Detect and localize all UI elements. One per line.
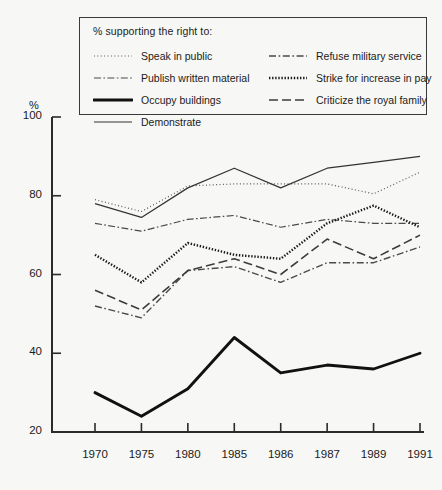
y-axis-tick-label: 80 — [8, 188, 42, 200]
y-axis-tick-label: 100 — [8, 109, 42, 121]
series-line-publish-written-material — [95, 215, 420, 231]
legend-swatch-long-dash-icon — [268, 94, 308, 106]
legend-swatch-fine-dotted-icon — [93, 50, 133, 62]
legend-item[interactable]: Speak in public — [93, 50, 212, 62]
series-line-strike-for-increase-in-pay — [95, 206, 420, 283]
series-line-demonstrate — [95, 156, 420, 217]
y-axis-tick-label: 20 — [8, 424, 42, 436]
legend-item[interactable]: Occupy buildings — [93, 94, 221, 106]
legend: % supporting the right to: Speak in publ… — [79, 17, 427, 115]
x-axis-tick-label: 1986 — [259, 448, 303, 460]
legend-item[interactable]: Strike for increase in pay — [268, 72, 432, 84]
chart-container: % 10080604020 19701975198019851986198719… — [0, 0, 442, 490]
legend-item-label: Publish written material — [141, 72, 250, 84]
x-axis-tick-label: 1975 — [119, 448, 163, 460]
series-layer — [95, 156, 420, 416]
legend-item-label: Demonstrate — [141, 116, 201, 128]
y-axis-tick-label: 40 — [8, 345, 42, 357]
legend-item-label: Occupy buildings — [141, 94, 221, 106]
legend-item[interactable]: Refuse military service — [268, 50, 422, 62]
legend-swatch-dash-dot-fine-icon — [93, 72, 133, 84]
x-axis-tick-label: 1980 — [166, 448, 210, 460]
legend-swatch-thick-dotted-icon — [268, 72, 308, 84]
legend-item-label: Strike for increase in pay — [316, 72, 432, 84]
series-line-occupy-buildings — [95, 338, 420, 417]
axis-lines — [52, 117, 424, 432]
y-axis-tick-label: 60 — [8, 267, 42, 279]
legend-swatch-dash-dot-icon — [268, 50, 308, 62]
legend-item[interactable]: Demonstrate — [93, 116, 201, 128]
legend-swatch-thick-solid-icon — [93, 94, 133, 106]
legend-item[interactable]: Criticize the royal family — [268, 94, 427, 106]
legend-item-label: Speak in public — [141, 50, 212, 62]
legend-swatch-thin-solid-icon — [93, 116, 133, 128]
legend-item-label: Criticize the royal family — [316, 94, 427, 106]
legend-title: % supporting the right to: — [93, 25, 212, 37]
x-axis-tick-label: 1989 — [352, 448, 396, 460]
x-axis-tick-label: 1970 — [73, 448, 117, 460]
legend-item[interactable]: Publish written material — [93, 72, 250, 84]
x-axis-tick-label: 1991 — [398, 448, 442, 460]
series-line-criticize-the-royal-family — [95, 235, 420, 310]
legend-item-label: Refuse military service — [316, 50, 422, 62]
x-axis-tick-label: 1987 — [305, 448, 349, 460]
axis-layer — [52, 117, 424, 432]
x-axis-tick-label: 1985 — [212, 448, 256, 460]
